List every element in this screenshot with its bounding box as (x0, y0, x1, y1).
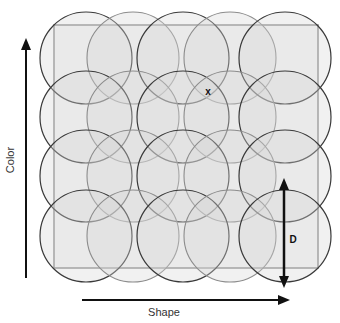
y-axis-label: Color (4, 147, 16, 174)
circle-grid (40, 12, 331, 282)
diameter-label: D (289, 234, 296, 245)
color-axis-arrow (21, 38, 31, 278)
arrowhead-right-icon (278, 295, 290, 305)
shape-axis-arrow (82, 295, 290, 305)
point-marker-x: x (205, 86, 211, 97)
x-axis-label: Shape (148, 306, 180, 318)
arrowhead-up-icon (21, 38, 31, 50)
coverage-diagram: Color Shape x D (0, 0, 340, 323)
